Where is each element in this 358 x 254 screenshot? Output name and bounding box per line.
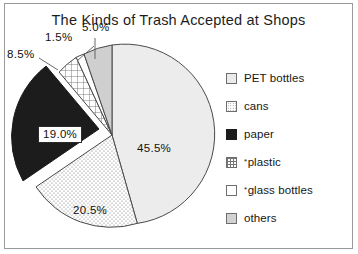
chart-frame: The Kinds of Trash Accepted at Shops — [4, 3, 353, 249]
pie-label-plastic: 8.5% — [7, 48, 34, 60]
pie-label-others: 5.0% — [82, 21, 109, 33]
legend-swatch-paper-icon — [226, 129, 237, 140]
legend-swatch-cans-icon — [226, 101, 237, 112]
chart-legend: PET bottles cans paper * plastic * glass… — [226, 64, 356, 232]
pie-label-paper: 19.0% — [38, 126, 82, 143]
legend-swatch-pet-bottles-icon — [226, 73, 237, 84]
legend-item-cans[interactable]: cans — [226, 92, 356, 120]
pie-label-pet-bottles: 45.5% — [137, 142, 171, 154]
legend-swatch-plastic-icon — [226, 157, 237, 168]
legend-label-glass-bottles: glass bottles — [248, 184, 313, 196]
legend-item-paper[interactable]: paper — [226, 120, 356, 148]
legend-label-cans: cans — [244, 100, 269, 112]
legend-item-others[interactable]: others — [226, 204, 356, 232]
legend-item-plastic[interactable]: * plastic — [226, 148, 356, 176]
legend-swatch-others-icon — [226, 213, 237, 224]
legend-swatch-glass-bottles-icon — [226, 185, 237, 196]
legend-label-paper: paper — [244, 128, 274, 140]
legend-label-pet-bottles: PET bottles — [244, 72, 304, 84]
pie-label-cans: 20.5% — [73, 204, 107, 216]
legend-label-others: others — [244, 212, 277, 224]
pie-label-glass-bottles: 1.5% — [45, 31, 72, 43]
legend-item-pet-bottles[interactable]: PET bottles — [226, 64, 356, 92]
pie-chart: 45.5% 20.5% 19.0% 8.5% 1.5% 5.0% — [11, 34, 216, 250]
legend-item-glass-bottles[interactable]: * glass bottles — [226, 176, 356, 204]
chart-title: The Kinds of Trash Accepted at Shops — [5, 12, 352, 28]
legend-label-plastic: plastic — [248, 156, 281, 168]
